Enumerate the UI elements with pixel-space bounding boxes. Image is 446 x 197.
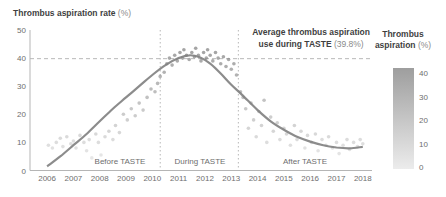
x-tick-label: 2018: [354, 174, 372, 183]
scatter-point: [230, 68, 234, 72]
scatter-point: [61, 145, 65, 149]
scatter-point: [170, 63, 174, 67]
scatter-point: [162, 70, 166, 74]
scatter-point: [87, 138, 91, 142]
scatter-point: [303, 146, 307, 150]
scatter-point: [327, 135, 331, 139]
scatter-point: [206, 48, 210, 52]
scatter-point: [107, 129, 111, 133]
x-tick-label: 2010: [143, 174, 161, 183]
average-annotation-line2: use during TASTE: [259, 39, 332, 49]
y-tick-label: 10: [17, 138, 26, 147]
scatter-point: [208, 54, 212, 58]
chart-title-unit: (%): [116, 8, 132, 18]
scatter-point: [216, 56, 220, 60]
colorbar-tick: 30: [419, 93, 443, 102]
scatter-point: [269, 115, 273, 119]
phase-label-during-taste: During TASTE: [175, 157, 226, 166]
x-tick-label: 2016: [301, 174, 319, 183]
scatter-point: [168, 56, 172, 60]
scatter-point: [345, 138, 349, 142]
scatter-point: [320, 138, 324, 142]
scatter-point: [72, 139, 76, 143]
x-tick-label: 2013: [222, 174, 240, 183]
x-tick-label: 2008: [91, 174, 109, 183]
scatter-point: [299, 129, 303, 133]
legend-title-line2: aspiration: [375, 40, 416, 50]
scatter-point: [82, 141, 86, 145]
legend-title-line1: Thrombus: [382, 29, 424, 39]
chart-title-text: Thrombus aspiration rate: [13, 8, 116, 18]
scatter-point: [90, 156, 94, 160]
scatter-point: [130, 107, 134, 111]
scatter-point: [47, 143, 51, 147]
scatter-point: [97, 141, 101, 145]
scatter-point: [78, 134, 82, 138]
scatter-point: [153, 90, 157, 94]
scatter-point: [219, 62, 223, 66]
scatter-point: [156, 82, 160, 86]
scatter-point: [103, 135, 107, 139]
y-tick-label: 0: [22, 167, 27, 176]
scatter-point: [293, 124, 297, 128]
scatter-point: [252, 118, 256, 122]
scatter-point: [352, 141, 356, 145]
scatter-point: [173, 54, 177, 58]
phase-label-after-taste: After TASTE: [283, 157, 327, 166]
colorbar-tick: 10: [419, 140, 443, 149]
scatter-point: [111, 138, 115, 142]
phase-label-before-taste: Before TASTE: [95, 157, 146, 166]
x-tick-label: 2007: [65, 174, 83, 183]
scatter-point: [145, 96, 149, 100]
scatter-point: [227, 58, 231, 62]
scatter-point: [247, 127, 251, 131]
colorbar-legend: Thrombus aspiration (%) 40 30 20 10 0: [372, 0, 446, 197]
legend-title-unit: (%): [416, 40, 432, 50]
scatter-point: [122, 113, 126, 117]
scatter-point: [94, 132, 98, 136]
scatter-point: [337, 152, 341, 156]
y-tick-label: 40: [17, 54, 26, 63]
scatter-point: [65, 135, 69, 139]
scatter-point: [278, 138, 282, 142]
scatter-point: [74, 146, 78, 150]
x-tick-label: 2011: [170, 174, 188, 183]
scatter-point: [341, 143, 345, 147]
scatter-point: [306, 134, 310, 138]
scatter-point: [254, 135, 258, 139]
scatter-point: [272, 129, 276, 133]
scatter-point: [262, 99, 266, 103]
scatter-point: [190, 51, 194, 55]
scatter-point: [59, 136, 63, 140]
scatter-point: [265, 141, 269, 145]
x-tick-label: 2017: [328, 174, 346, 183]
trend-line: [47, 55, 363, 166]
scatter-point: [114, 124, 118, 128]
scatter-point: [55, 141, 59, 145]
scatter-point: [314, 132, 318, 136]
scatter-point: [149, 87, 153, 91]
y-tick-label: 20: [17, 110, 26, 119]
scatter-point: [335, 141, 339, 145]
scatter-point: [141, 108, 145, 112]
average-annotation: Average thrombus aspiration use during T…: [252, 27, 370, 50]
x-tick-label: 2012: [196, 174, 214, 183]
scatter-point: [187, 58, 191, 62]
scatter-point: [51, 146, 55, 150]
scatter-point: [235, 73, 239, 77]
average-annotation-value: (39.8%): [332, 39, 364, 49]
y-tick-label: 50: [17, 26, 26, 35]
scatter-point: [222, 55, 226, 59]
scatter-point: [289, 143, 293, 147]
scatter-point: [194, 47, 198, 51]
colorbar-tick: 20: [419, 116, 443, 125]
scatter-point: [202, 51, 206, 55]
colorbar-tick: 40: [419, 69, 443, 78]
colorbar-gradient: [393, 68, 414, 169]
x-tick-label: 2015: [275, 174, 293, 183]
scatter-point: [85, 149, 89, 153]
scatter-point: [316, 149, 320, 153]
x-tick-label: 2006: [38, 174, 56, 183]
chart-title: Thrombus aspiration rate (%): [13, 8, 131, 18]
chart-figure: 0102030405020062007200820092010201120122…: [0, 0, 446, 197]
